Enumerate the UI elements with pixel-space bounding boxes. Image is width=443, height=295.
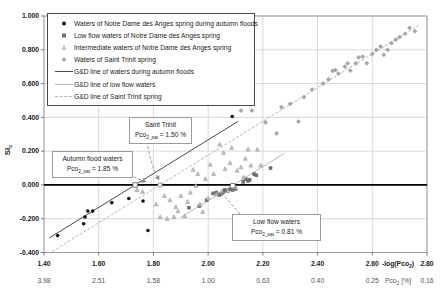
- annotation-title: Saint Trinit: [132, 120, 189, 130]
- legend-item: Low flow waters of Notre Dame des Anges …: [53, 29, 252, 41]
- x-tick-label: 2.00: [202, 260, 215, 267]
- legend-label: G&D line of low flow waters: [74, 81, 155, 88]
- data-point: [208, 162, 212, 166]
- data-point: [146, 229, 150, 233]
- data-point: [212, 172, 216, 176]
- data-point: [172, 215, 176, 219]
- data-point: [198, 202, 202, 206]
- data-point: [248, 178, 252, 182]
- open-square-marker: [231, 184, 235, 188]
- x-tick-secondary-label: 0.25: [366, 277, 379, 284]
- data-point: [407, 26, 411, 30]
- data-point: [56, 234, 60, 238]
- line-sample-legend-icon: [53, 67, 74, 76]
- data-point: [230, 146, 234, 150]
- annotation-title: Low flow waters: [235, 217, 318, 227]
- data-point: [250, 109, 254, 113]
- legend-label: G&D line of waters during autumn floods: [74, 68, 194, 75]
- annotation-pco-line: Pco2_sat = 0.81 %: [235, 227, 318, 239]
- data-point: [187, 206, 191, 210]
- y-axis-ticks: 1.0000.8000.6000.4000.2000.000-0.200-0.4…: [20, 12, 44, 256]
- pco-value: = 0.81 %: [274, 228, 302, 235]
- data-point: [179, 194, 183, 198]
- legend: Waters of Notre Dame des Anges spring du…: [47, 13, 255, 106]
- data-point: [413, 29, 417, 33]
- data-point: [230, 115, 234, 119]
- data-point: [211, 192, 215, 196]
- x-tick-label: 1.60: [92, 260, 105, 267]
- legend-label: Intermediate waters of Notre Dame des An…: [74, 44, 231, 51]
- series-diamond-points: [239, 26, 417, 136]
- x-tick-label: 2.20: [256, 260, 269, 267]
- data-point: [162, 194, 166, 198]
- y-tick-label: -0.200: [20, 215, 39, 222]
- data-point: [110, 201, 114, 205]
- data-point: [310, 87, 314, 91]
- data-point: [386, 48, 390, 52]
- pco-value: = 1.85 %: [90, 165, 118, 172]
- data-point: [228, 161, 232, 165]
- y-tick-label: 0.200: [22, 147, 39, 154]
- x-axis-label: -log(Pco2): [382, 260, 414, 269]
- y-tick-label: 1.000: [22, 12, 39, 19]
- low-flow-arrow: [221, 192, 240, 214]
- data-point: [336, 71, 340, 75]
- data-point: [259, 163, 263, 167]
- x-tick-secondary-label: 0.63: [256, 277, 269, 284]
- legend-label: Low flow waters of Notre Dame des Anges …: [74, 32, 220, 39]
- pco-subscript: 2_sat: [146, 135, 158, 140]
- y-tick-label: -0.400: [20, 249, 39, 256]
- legend-label: G&D line of Saint Trinit spring: [74, 93, 162, 100]
- data-point: [242, 175, 246, 179]
- pco-value: = 1.50 %: [158, 131, 186, 138]
- legend-item: Waters of Notre Dame des Anges spring du…: [53, 17, 252, 29]
- data-point: [91, 209, 95, 213]
- chart-figure: 1.403.981.602.511.801.582.001.002.200.63…: [0, 0, 443, 295]
- data-point: [357, 55, 361, 59]
- data-point: [235, 168, 239, 172]
- pco-subscript: 2_sat: [78, 169, 90, 174]
- data-point: [174, 205, 178, 209]
- pco-prefix: Pco: [135, 131, 146, 138]
- data-point: [191, 168, 195, 172]
- y-axis-label: SIc: [3, 145, 13, 156]
- data-point: [239, 109, 243, 113]
- diamond-legend-icon: [53, 55, 74, 64]
- circle-legend-icon: [53, 19, 74, 28]
- y-tick-label: 0.600: [22, 80, 39, 87]
- data-point: [374, 48, 378, 52]
- data-point: [196, 172, 200, 176]
- annotation-low-flow: Low flow waters Pco2_sat = 0.81 %: [232, 214, 321, 241]
- x-tick-label: 1.80: [147, 260, 160, 267]
- x-tick-secondary-label: 0.40: [311, 277, 324, 284]
- legend-item: Intermediate waters of Notre Dame des An…: [53, 41, 252, 53]
- pco-prefix: Pco: [67, 165, 78, 172]
- pco-subscript: 2_sat: [262, 232, 274, 237]
- annotation-autumn-flood: Autumn flood waters Pco2_sat = 1.85 %: [52, 151, 133, 178]
- triangle-legend-icon: [53, 43, 74, 52]
- open-square-marker: [133, 183, 137, 187]
- data-point: [346, 61, 350, 65]
- data-point: [361, 54, 365, 58]
- data-point: [269, 166, 273, 170]
- data-point: [176, 209, 180, 213]
- data-point: [254, 173, 258, 177]
- data-point: [206, 196, 210, 200]
- legend-item: G&D line of waters during autumn floods: [53, 66, 252, 78]
- data-point: [239, 165, 243, 169]
- data-point: [201, 210, 205, 214]
- data-point: [382, 53, 386, 57]
- data-point: [135, 188, 139, 192]
- annotation-pco-line: Pco2_sat = 1.50 %: [132, 130, 189, 142]
- data-point: [140, 189, 144, 193]
- y-tick-label: 0.800: [22, 46, 39, 53]
- data-point: [243, 157, 247, 161]
- line-sample-legend-icon: [53, 92, 74, 101]
- legend-label: Waters of Notre Dame des Anges spring du…: [74, 20, 258, 27]
- data-point: [86, 209, 90, 213]
- x-tick-label: 2.40: [311, 260, 324, 267]
- x-tick-label: 1.40: [37, 260, 50, 267]
- annotation-title: Autumn flood waters: [55, 154, 130, 164]
- x-tick-label: 2.80: [420, 260, 433, 267]
- data-point: [82, 222, 86, 226]
